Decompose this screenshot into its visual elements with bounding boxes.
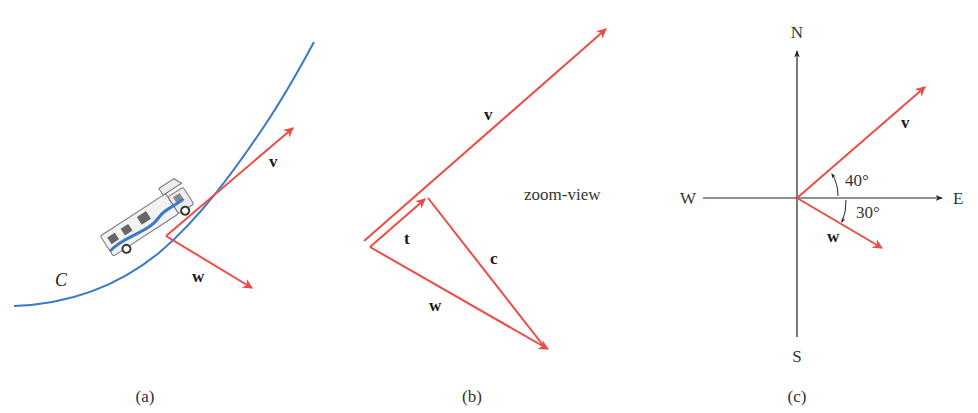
panel-a: C v w (a) bbox=[14, 42, 314, 406]
vector-w bbox=[166, 236, 252, 288]
curve-c bbox=[14, 42, 314, 306]
vector-t-label: t bbox=[404, 229, 410, 248]
angle-label-30: 30° bbox=[856, 203, 880, 222]
curve-label: C bbox=[55, 270, 68, 290]
panel-b: v t c w zoom-view (b) bbox=[364, 29, 606, 406]
vector-c-label: c bbox=[490, 249, 498, 268]
panel-c: N S E W v w 40° 30° (c) bbox=[680, 23, 963, 406]
vector-w-label: w bbox=[429, 296, 442, 315]
compass-south: S bbox=[792, 347, 801, 366]
compass-north: N bbox=[791, 23, 803, 42]
vector-w bbox=[370, 247, 548, 349]
motorhome-icon bbox=[96, 177, 198, 261]
vector-v-label: v bbox=[901, 113, 910, 132]
caption-a: (a) bbox=[136, 387, 155, 406]
angle-arc-30 bbox=[842, 200, 846, 222]
vector-v-label: v bbox=[269, 152, 278, 171]
vector-v bbox=[364, 29, 606, 241]
vector-v-label: v bbox=[484, 105, 493, 124]
figure-canvas: C v w (a) v t c bbox=[0, 0, 978, 413]
vector-t bbox=[370, 199, 425, 247]
angle-label-40: 40° bbox=[845, 171, 869, 190]
vector-v bbox=[166, 128, 293, 236]
caption-c: (c) bbox=[788, 387, 807, 406]
zoom-view-title: zoom-view bbox=[524, 185, 601, 204]
caption-b: (b) bbox=[462, 387, 482, 406]
compass-west: W bbox=[680, 189, 697, 208]
compass-east: E bbox=[953, 189, 963, 208]
vector-c bbox=[428, 198, 546, 349]
vector-w-label: w bbox=[192, 267, 205, 286]
angle-arc-40 bbox=[832, 174, 838, 196]
vector-w-label: w bbox=[827, 227, 840, 246]
